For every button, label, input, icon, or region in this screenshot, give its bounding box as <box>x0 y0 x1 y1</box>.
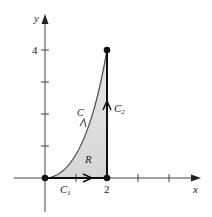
curve-c-arrow-icon <box>80 119 86 127</box>
y-tick-label-4: 4 <box>32 44 38 56</box>
x-axis-arrow-icon <box>191 175 201 182</box>
region-r-label: R <box>84 153 92 165</box>
curve-c-label: C <box>77 107 84 118</box>
y-axis-arrow-icon <box>42 14 49 24</box>
x-axis-label: x <box>192 183 198 195</box>
y-axis-label: y <box>33 12 39 24</box>
point-2-4 <box>104 47 111 54</box>
segment-c2-label: C2 <box>114 102 125 116</box>
point-origin <box>42 175 49 182</box>
diagram: y x 4 2 C C2 C1 R <box>0 0 212 217</box>
region-r <box>45 50 107 178</box>
segment-c1-label: C1 <box>60 183 71 197</box>
x-tick-label-2: 2 <box>104 183 110 195</box>
point-2-0 <box>104 175 111 182</box>
